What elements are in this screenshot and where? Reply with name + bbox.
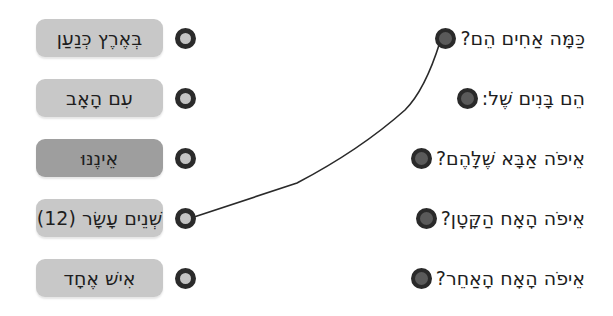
answer-connector-dot-3[interactable] [175,148,196,169]
question-5: אֵיפֹה הָאָח הָאַחֵר? [411,263,585,293]
answer-connector-dot-1[interactable] [175,28,196,49]
answer-box-2[interactable]: עִם הָאָב [36,79,163,117]
question-connector-dot-5[interactable] [411,268,432,289]
question-connector-dot-3[interactable] [411,148,432,169]
question-connector-dot-2[interactable] [457,88,478,109]
answer-label: בְּאֶרֶץ כְּנַעַן [57,27,143,49]
answer-connector-dot-5[interactable] [175,268,196,289]
question-label: אֵיפֹה הָאָח הַקָּטָן? [441,207,585,229]
question-label: אֵיפֹה הָאָח הָאַחֵר? [436,267,585,289]
answer-label: אֵינֶנּוּ [81,147,118,169]
matching-exercise: בְּאֶרֶץ כְּנַעַן עִם הָאָב אֵינֶנּוּ שְ… [0,0,613,316]
answer-label: שְׁנֵים עָשָׂר (12) [37,207,162,229]
question-label: הֵם בָּנִים שֶׁל: [482,87,585,109]
answer-connector-dot-4[interactable] [175,208,196,229]
answer-label: אִישׁ אֶחָד [64,267,136,289]
question-connector-dot-1[interactable] [435,28,456,49]
question-3: אֵיפֹה אַבָּא שֶׁלָּהֶם? [411,143,585,173]
question-1: כַּמָּה אַחִים הֵם? [435,23,585,53]
answer-box-4[interactable]: שְׁנֵים עָשָׂר (12) [36,199,163,237]
question-label: כַּמָּה אַחִים הֵם? [460,27,585,49]
answer-box-5[interactable]: אִישׁ אֶחָד [36,259,163,297]
answer-box-3[interactable]: אֵינֶנּוּ [36,139,163,177]
answer-label: עִם הָאָב [66,87,133,109]
connection-line-q1-a4 [191,42,440,218]
question-4: אֵיפֹה הָאָח הַקָּטָן? [416,203,585,233]
question-connector-dot-4[interactable] [416,208,437,229]
answer-connector-dot-2[interactable] [175,88,196,109]
answer-box-1[interactable]: בְּאֶרֶץ כְּנַעַן [36,19,163,57]
question-2: הֵם בָּנִים שֶׁל: [457,83,585,113]
question-label: אֵיפֹה אַבָּא שֶׁלָּהֶם? [436,147,585,169]
